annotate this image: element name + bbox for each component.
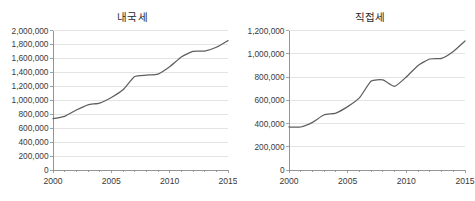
xtick-label-domestic-tax-3: 2015 <box>218 176 237 186</box>
figure-root: 내국세 0200,000400,000600,000800,0001,000,0… <box>0 0 475 201</box>
data-line-domestic-tax <box>53 41 228 119</box>
ytick-label-domestic-tax-9: 1,800,000 <box>12 39 49 49</box>
chart-canvas-direct-tax: 0200,000400,000600,000800,0001,000,0001,… <box>237 0 475 201</box>
ytick-label-domestic-tax-2: 400,000 <box>19 137 49 147</box>
ytick-label-domestic-tax-8: 1,600,000 <box>12 53 49 63</box>
ytick-label-domestic-tax-7: 1,400,000 <box>12 67 49 77</box>
ytick-label-direct-tax-0: 0 <box>280 165 285 175</box>
ytick-label-direct-tax-3: 600,000 <box>255 95 285 105</box>
xtick-label-domestic-tax-0: 2000 <box>43 176 62 186</box>
ytick-label-direct-tax-1: 200,000 <box>255 142 285 152</box>
xtick-label-direct-tax-3: 2015 <box>455 176 474 186</box>
ytick-label-domestic-tax-0: 0 <box>44 165 49 175</box>
xtick-label-direct-tax-1: 2005 <box>338 176 357 186</box>
xtick-label-domestic-tax-1: 2005 <box>102 176 121 186</box>
xtick-label-domestic-tax-2: 2010 <box>160 176 179 186</box>
ytick-label-domestic-tax-5: 1,000,000 <box>12 95 49 105</box>
ytick-label-domestic-tax-6: 1,200,000 <box>12 81 49 91</box>
ytick-label-direct-tax-5: 1,000,000 <box>248 49 285 59</box>
ytick-label-domestic-tax-1: 200,000 <box>19 151 49 161</box>
chart-panel-domestic-tax: 내국세 0200,000400,000600,000800,0001,000,0… <box>0 0 237 201</box>
ytick-label-domestic-tax-4: 800,000 <box>19 109 49 119</box>
ytick-label-domestic-tax-3: 600,000 <box>19 123 49 133</box>
xtick-label-direct-tax-2: 2010 <box>397 176 416 186</box>
chart-panel-direct-tax: 직접세 0200,000400,000600,000800,0001,000,0… <box>237 0 475 201</box>
ytick-label-direct-tax-2: 400,000 <box>255 119 285 129</box>
ytick-label-direct-tax-6: 1,200,000 <box>248 26 285 36</box>
ytick-label-direct-tax-4: 800,000 <box>255 72 285 82</box>
chart-canvas-domestic-tax: 0200,000400,000600,000800,0001,000,0001,… <box>0 0 237 201</box>
xtick-label-direct-tax-0: 2000 <box>279 176 298 186</box>
ytick-label-domestic-tax-10: 2,000,000 <box>12 26 49 36</box>
